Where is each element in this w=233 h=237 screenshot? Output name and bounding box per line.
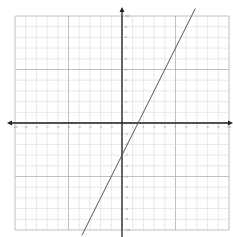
y-tick-label: 5 [125, 68, 127, 72]
x-tick-label: 2 [142, 125, 144, 129]
x-tick-label: 10 [227, 125, 231, 129]
x-tick-label: 4 [164, 125, 166, 129]
x-tick-label: -1 [110, 125, 113, 129]
y-tick-label: -1 [125, 132, 128, 136]
x-tick-label: -10 [13, 125, 18, 129]
x-tick-label: 3 [153, 125, 155, 129]
y-tick-label: 2 [125, 100, 127, 104]
y-tick-label: -7 [125, 196, 128, 200]
x-tick-label: 9 [217, 125, 219, 129]
x-tick-label: -5 [67, 125, 70, 129]
x-tick-label: 1 [132, 125, 134, 129]
x-tick-label: -7 [46, 125, 49, 129]
y-tick-label: 9 [125, 25, 127, 29]
y-tick-label: -6 [125, 185, 128, 189]
x-tick-label: -3 [88, 125, 91, 129]
x-tick-label: -2 [99, 125, 102, 129]
y-tick-label: 3 [125, 89, 127, 93]
y-axis-up-arrow-icon [120, 7, 125, 12]
y-tick-label: 6 [125, 57, 127, 61]
y-tick-label: 8 [125, 35, 127, 39]
y-tick-label: -4 [125, 164, 128, 168]
y-tick-label: 7 [125, 46, 127, 50]
x-tick-label: -9 [24, 125, 27, 129]
y-tick-label: 10 [125, 14, 129, 18]
x-tick-label: 6 [185, 125, 187, 129]
x-tick-label: -4 [78, 125, 81, 129]
plotted-line [82, 9, 195, 236]
y-tick-label: -8 [125, 207, 128, 211]
x-axis-left-arrow-icon [7, 121, 12, 126]
y-tick-label: 4 [125, 78, 127, 82]
coordinate-plane: -10-9-8-7-6-5-4-3-2-11234567891010987654… [0, 0, 233, 237]
y-tick-label: 1 [125, 110, 127, 114]
y-tick-label: -3 [125, 153, 128, 157]
x-tick-label: 8 [207, 125, 209, 129]
x-tick-label: 7 [196, 125, 198, 129]
y-tick-label: -5 [125, 175, 128, 179]
y-tick-label: -9 [125, 217, 128, 221]
y-tick-label: -10 [125, 228, 130, 232]
x-tick-label: -8 [35, 125, 38, 129]
x-tick-label: 5 [175, 125, 177, 129]
x-tick-label: -6 [56, 125, 59, 129]
